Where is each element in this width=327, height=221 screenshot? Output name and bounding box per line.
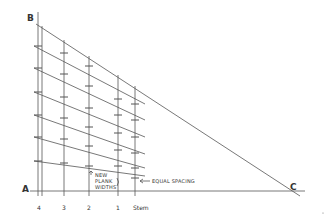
plank-line-3 <box>34 92 145 137</box>
plank-widths-arrow-icon <box>89 171 93 175</box>
column-label-1: 1 <box>116 204 120 211</box>
grid-ticks <box>34 46 122 166</box>
point-label-b: B <box>27 13 34 23</box>
diagonal-bc <box>36 24 300 196</box>
column-label-2: 2 <box>87 204 91 211</box>
equal-spacing-arrow-icon <box>140 179 150 183</box>
equal-spacing-label: EQUAL SPACING <box>152 178 195 184</box>
new-plank-widths-line3: WIDTHS <box>95 184 116 190</box>
point-label-c: C <box>290 182 297 192</box>
plank-line-4 <box>34 115 145 154</box>
plank-line-1 <box>34 46 145 104</box>
column-label-4: 4 <box>37 204 41 211</box>
plank-line-2 <box>34 68 145 120</box>
stray-dot <box>322 212 323 213</box>
point-label-a: A <box>22 184 29 194</box>
column-label-3: 3 <box>62 204 66 211</box>
column-label-stem: Stem <box>133 204 149 211</box>
plank-layout-diagram: B A C 4 3 2 1 Stem NEW PLANK WIDTHS EQUA… <box>0 0 327 221</box>
